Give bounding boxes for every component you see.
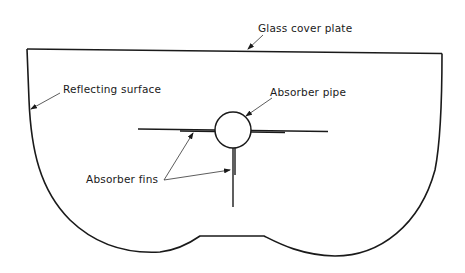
absorber-fin-left-inner	[180, 131, 215, 132]
label-absorber-pipe: Absorber pipe	[270, 86, 346, 98]
solar-collector-cross-section-diagram: Glass cover plate Reflecting surface Abs…	[0, 0, 465, 273]
absorber-fin-left	[138, 129, 215, 130]
label-reflecting-surface: Reflecting surface	[63, 83, 161, 95]
glass-cover-plate	[27, 49, 442, 54]
absorber-fin-right-inner	[251, 132, 285, 133]
absorber-fin-right	[251, 131, 328, 132]
leader-reflecting-surface	[31, 93, 60, 109]
label-absorber-fins: Absorber fins	[86, 173, 158, 185]
absorber-pipe	[215, 112, 251, 148]
leader-glass-cover-plate	[248, 35, 263, 49]
label-glass-cover-plate: Glass cover plate	[258, 22, 352, 34]
leader-absorber-fins-1	[164, 133, 193, 180]
leader-absorber-pipe	[246, 98, 272, 116]
leader-absorber-fins-2	[164, 170, 230, 180]
